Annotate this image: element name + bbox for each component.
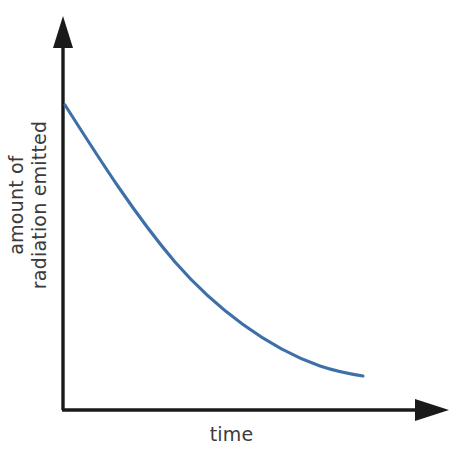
chart-figure: amount of radiation emitted time xyxy=(0,0,463,472)
y-axis-arrowhead-icon xyxy=(53,16,73,48)
x-axis-arrowhead-icon xyxy=(415,399,449,421)
y-axis-label-container: amount of radiation emitted xyxy=(0,0,56,410)
decay-curve xyxy=(65,105,363,376)
chart-plot-area xyxy=(0,0,463,472)
x-axis-label: time xyxy=(0,423,463,446)
y-axis-label: amount of radiation emitted xyxy=(5,121,51,289)
